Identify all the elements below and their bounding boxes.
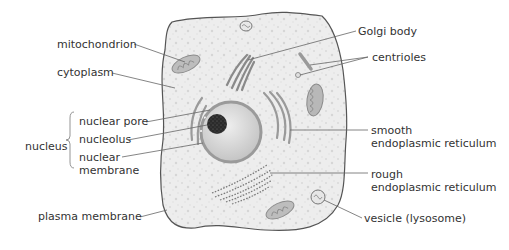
label-cytoplasm: cytoplasm <box>57 66 114 79</box>
label-rough-er: rough endoplasmic reticulum <box>371 168 496 194</box>
label-nuclear-pore: nuclear pore <box>79 115 148 128</box>
label-nucleus: nucleus <box>25 140 68 153</box>
label-vesicle-lysosome: vesicle (lysosome) <box>364 212 466 225</box>
label-rough-er-line2: endoplasmic reticulum <box>371 181 496 194</box>
label-nuclear-membrane-line2: membrane <box>79 164 139 177</box>
nucleolus-shape <box>207 114 227 134</box>
label-nuclear-membrane: nuclear membrane <box>79 151 139 177</box>
vesicle-top <box>240 21 252 31</box>
label-rough-er-line1: rough <box>371 168 496 181</box>
label-nucleolus: nucleolus <box>79 133 131 146</box>
label-mitochondrion: mitochondrion <box>57 38 137 51</box>
label-golgi-body: Golgi body <box>358 25 417 38</box>
label-centrioles: centrioles <box>372 51 426 64</box>
label-smooth-er-line1: smooth <box>371 124 496 137</box>
label-smooth-er: smooth endoplasmic reticulum <box>371 124 496 150</box>
label-smooth-er-line2: endoplasmic reticulum <box>371 137 496 150</box>
vesicle-lysosome-shape <box>311 190 325 204</box>
label-nuclear-membrane-line1: nuclear <box>79 151 139 164</box>
label-plasma-membrane: plasma membrane <box>38 210 142 223</box>
nucleus-shape <box>201 102 261 162</box>
